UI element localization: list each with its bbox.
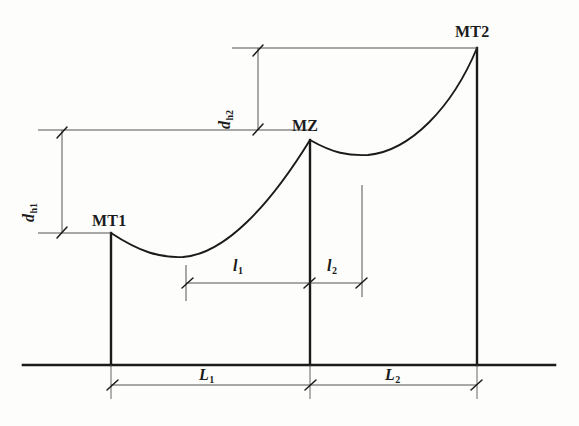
- node-label-mt1: MT1: [92, 213, 126, 229]
- dimension-label-dh1-subscript: h1: [28, 203, 39, 214]
- conductor-span-2: [310, 48, 477, 155]
- node-label-mt2: MT2: [455, 24, 489, 40]
- dimension-label-l2: l2: [327, 258, 336, 274]
- dimension-label-l1-symbol: l: [233, 257, 237, 274]
- dimension-label-dh1: dh1: [21, 203, 37, 222]
- dimension-label-dh2: dh2: [217, 110, 233, 129]
- dimension-label-L2: L2: [385, 367, 400, 383]
- dimension-label-l1: l1: [233, 258, 242, 274]
- diagram-canvas: [0, 0, 579, 426]
- dimension-label-L2-subscript: 2: [395, 374, 400, 385]
- dimension-label-l2-symbol: l: [327, 257, 331, 274]
- dimension-label-dh2-symbol: d: [216, 121, 233, 129]
- dimension-label-dh1-symbol: d: [20, 214, 37, 222]
- dimension-label-l1-subscript: 1: [238, 265, 243, 276]
- dimension-label-L1-subscript: 1: [209, 374, 214, 385]
- span-diagram-figure: MT1 MZ MT2 dh1 dh2 l1 l2 L1 L2: [0, 0, 579, 426]
- dimension-label-l2-subscript: 2: [332, 265, 337, 276]
- conductor-span-1: [111, 140, 310, 257]
- dimension-label-L1: L1: [199, 367, 214, 383]
- node-label-mz: MZ: [292, 118, 318, 134]
- dimension-label-dh2-subscript: h2: [224, 110, 235, 121]
- dimension-label-L2-symbol: L: [385, 366, 395, 383]
- dimension-label-L1-symbol: L: [199, 366, 209, 383]
